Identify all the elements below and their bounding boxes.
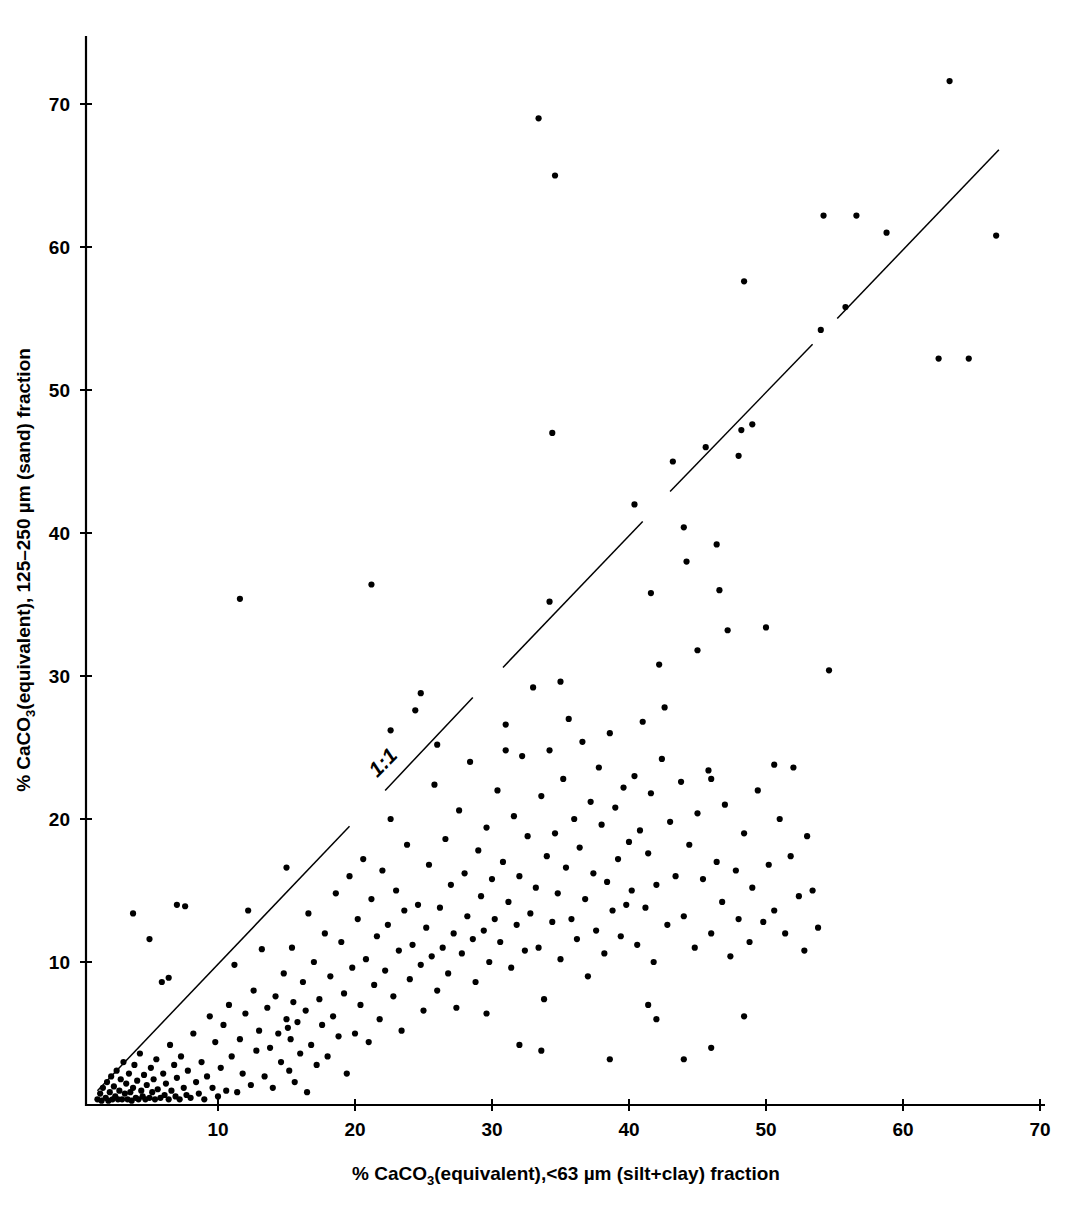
data-point xyxy=(152,1096,158,1102)
data-point xyxy=(557,956,563,962)
data-point xyxy=(593,927,599,933)
data-point xyxy=(716,587,722,593)
data-point xyxy=(304,1089,310,1095)
data-point xyxy=(516,873,522,879)
data-point xyxy=(782,930,788,936)
data-point xyxy=(330,1013,336,1019)
data-point xyxy=(368,581,374,587)
data-point xyxy=(248,1082,254,1088)
data-point xyxy=(390,993,396,999)
data-point xyxy=(546,747,552,753)
data-point xyxy=(442,836,448,842)
y-tick-label: 70 xyxy=(49,94,70,115)
scatter-plot-figure: 10203040506070 10203040506070 1:1 % CaCO… xyxy=(0,0,1072,1213)
data-point xyxy=(609,907,615,913)
data-point xyxy=(377,1016,383,1022)
data-point xyxy=(481,927,487,933)
data-point xyxy=(796,893,802,899)
data-point xyxy=(415,902,421,908)
data-point xyxy=(357,1002,363,1008)
data-point xyxy=(141,1072,147,1078)
data-point xyxy=(137,1050,143,1056)
axes xyxy=(86,36,1045,1105)
data-point xyxy=(467,759,473,765)
y-tick-label: 50 xyxy=(49,380,70,401)
data-point xyxy=(297,1050,303,1056)
data-point xyxy=(645,850,651,856)
data-point xyxy=(519,753,525,759)
data-point xyxy=(209,1085,215,1091)
data-point xyxy=(171,1062,177,1068)
reference-line-segment xyxy=(385,697,473,790)
data-point xyxy=(290,999,296,1005)
data-point xyxy=(437,905,443,911)
data-point xyxy=(388,816,394,822)
data-point xyxy=(703,444,709,450)
data-point xyxy=(618,933,624,939)
data-point xyxy=(599,822,605,828)
data-point xyxy=(198,1059,204,1065)
data-point xyxy=(478,893,484,899)
y-tick-label: 30 xyxy=(49,666,70,687)
data-point xyxy=(736,453,742,459)
data-point xyxy=(420,1008,426,1014)
data-point xyxy=(708,1045,714,1051)
data-point xyxy=(492,916,498,922)
data-point xyxy=(123,1080,129,1086)
data-point xyxy=(692,945,698,951)
data-point xyxy=(426,862,432,868)
data-point xyxy=(544,853,550,859)
data-point xyxy=(116,1088,122,1094)
data-point xyxy=(325,1053,331,1059)
data-point xyxy=(316,996,322,1002)
data-point xyxy=(118,1076,124,1082)
data-point xyxy=(590,870,596,876)
data-point xyxy=(267,1045,273,1051)
data-point xyxy=(201,1096,207,1102)
data-point xyxy=(272,993,278,999)
axis-lines xyxy=(86,36,1045,1105)
data-point xyxy=(552,172,558,178)
data-point xyxy=(163,1080,169,1086)
data-point xyxy=(285,1025,291,1031)
y-axis-title: % CaCO3(equivalent), 125–250 µm (sand) f… xyxy=(13,348,38,792)
y-tick-label: 10 xyxy=(49,952,70,973)
data-point xyxy=(234,1089,240,1095)
data-point xyxy=(555,890,561,896)
data-point xyxy=(190,1030,196,1036)
data-point xyxy=(368,896,374,902)
data-point xyxy=(604,879,610,885)
data-point xyxy=(500,859,506,865)
data-point xyxy=(475,847,481,853)
data-point xyxy=(705,767,711,773)
data-point xyxy=(229,1053,235,1059)
data-point xyxy=(659,756,665,762)
data-point xyxy=(418,690,424,696)
data-point xyxy=(818,327,824,333)
data-point xyxy=(574,936,580,942)
data-point xyxy=(363,956,369,962)
data-point xyxy=(151,1076,157,1082)
data-point xyxy=(261,1073,267,1079)
data-point xyxy=(168,1088,174,1094)
data-point xyxy=(226,1002,232,1008)
data-point xyxy=(462,870,468,876)
data-point xyxy=(777,816,783,822)
data-point xyxy=(223,1088,229,1094)
data-point xyxy=(119,1096,125,1102)
data-point xyxy=(148,1065,154,1071)
data-point xyxy=(196,1090,202,1096)
data-point xyxy=(464,913,470,919)
data-point xyxy=(292,1079,298,1085)
data-point xyxy=(286,1068,292,1074)
data-point xyxy=(251,988,257,994)
data-point xyxy=(456,807,462,813)
data-point xyxy=(144,1082,150,1088)
data-point xyxy=(607,730,613,736)
data-point xyxy=(651,959,657,965)
data-point xyxy=(253,1048,259,1054)
y-tick-label: 60 xyxy=(49,237,70,258)
data-point xyxy=(245,907,251,913)
data-point xyxy=(153,1056,159,1062)
data-point xyxy=(853,212,859,218)
